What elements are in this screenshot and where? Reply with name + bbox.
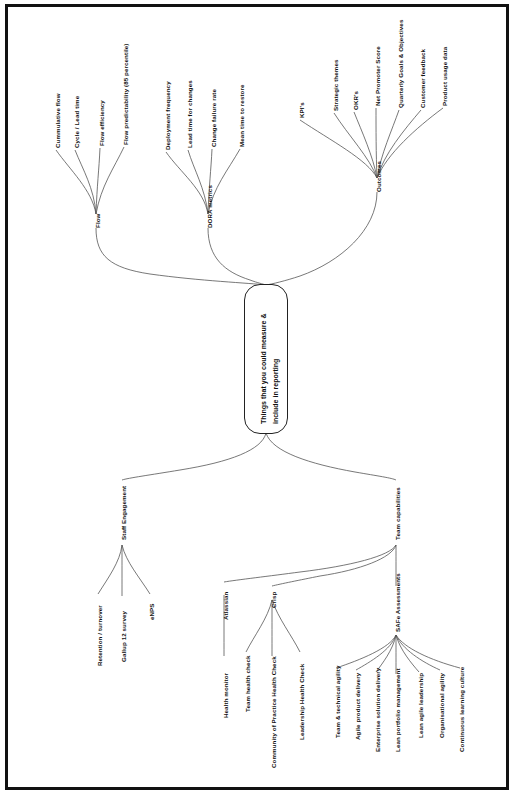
leaf-gallup-12-survey[interactable]: Gallup 12 survey <box>120 611 127 662</box>
leaf-deployment-frequency[interactable]: Deployment frequency <box>164 81 171 150</box>
central-node-line1: Things that you could measure & <box>258 314 269 424</box>
mindmap-canvas: Things that you could measure & include … <box>0 0 514 802</box>
branch-label-crisp[interactable]: Crisp <box>270 592 277 608</box>
branch-label-flow[interactable]: Flow <box>94 214 101 229</box>
leaf-agile-product-delivery[interactable]: Agile product delivery <box>354 673 361 740</box>
branch-label-staff-engagement[interactable]: Staff Engagement <box>120 486 127 540</box>
leaf-strategic-themes[interactable]: Strategic themes <box>332 60 339 111</box>
leaf-cycle-lead-time[interactable]: Cycle / Lead time <box>73 96 80 148</box>
leaf-okrs[interactable]: OKR's <box>352 91 359 110</box>
leaf-quarterly-goals-objectives[interactable]: Quarterly Goals & Objectives <box>397 20 404 108</box>
leaf-product-usage-data[interactable]: Product usage data <box>441 47 448 106</box>
leaf-continuous-learning-culture[interactable]: Continuous learning culture <box>458 667 465 752</box>
branch-label-safe-assessments[interactable]: SAFe Assessments <box>394 573 401 632</box>
branch-label-team-capabilities[interactable]: Team capabilities <box>394 487 401 540</box>
leaf-team-technical-agility[interactable]: Team & technical agility <box>334 666 341 738</box>
leaf-cummulative-flow[interactable]: Cummulative flow <box>54 93 61 148</box>
leaf-lean-agile-leadership[interactable]: Lean agile leadership <box>417 673 424 738</box>
leaf-retention-turnover[interactable]: Retention / turnover <box>96 605 103 666</box>
leaf-leadership-health-check[interactable]: Leadership Health Check <box>298 664 305 740</box>
leaf-mean-time-to-restore[interactable]: Mean time to restore <box>238 84 245 147</box>
leaf-lean-portfolio-management[interactable]: Lean portfolio management <box>394 668 401 752</box>
leaf-health-monitor[interactable]: Health monitor <box>222 673 229 718</box>
leaf-flow-predictability[interactable]: Flow predictability (85 percentile) <box>122 44 129 146</box>
leaf-lead-time-for-changes[interactable]: Lead time for changes <box>186 80 193 148</box>
leaf-team-health-check[interactable]: Team health check <box>244 655 251 712</box>
leaf-enterprise-solution-delivery[interactable]: Enterprise solution delivery <box>374 668 381 752</box>
leaf-community-of-practice-health-check[interactable]: Community of Practice Health Check <box>270 656 277 768</box>
leaf-organisational-agility[interactable]: Organisational agility <box>438 673 445 738</box>
branch-label-dora-metrics[interactable]: DORA metrics <box>206 185 213 228</box>
leaf-customer-feedback[interactable]: Customer feedback <box>419 49 426 108</box>
leaf-kpis[interactable]: KPI's <box>298 102 305 118</box>
leaf-enps[interactable]: eNPS <box>148 603 155 620</box>
leaf-flow-efficiency[interactable]: Flow efficiency <box>98 100 105 146</box>
leaf-change-failure-rate[interactable]: Change failure rate <box>210 89 217 147</box>
central-node-line2: include in reporting <box>270 359 281 424</box>
leaf-net-promoter-score[interactable]: Net Promoter Score <box>374 46 381 106</box>
branch-label-outcomes[interactable]: Outcomes <box>375 161 382 192</box>
branch-label-atlassian[interactable]: Atlassian <box>222 592 229 620</box>
